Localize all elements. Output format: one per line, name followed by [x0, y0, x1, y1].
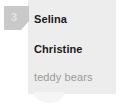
list-item[interactable]: Christine: [34, 43, 83, 55]
entry-list: Selina Christine teddy bears: [34, 0, 116, 94]
tag-label[interactable]: teddy bears: [34, 71, 93, 83]
badge-count: 3: [4, 6, 24, 28]
list-item[interactable]: Selina: [34, 13, 67, 25]
folded-corner-badge-icon[interactable]: 3: [4, 6, 29, 30]
popup-card-root: 3 Selina Christine teddy bears: [0, 0, 120, 104]
